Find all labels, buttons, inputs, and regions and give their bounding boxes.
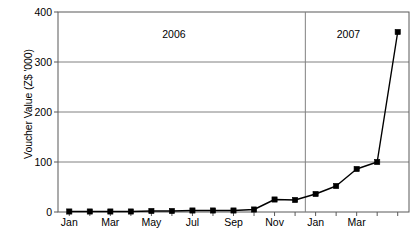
data-point-marker [251, 207, 256, 212]
x-tick-label: Mar [337, 216, 377, 228]
year-annotation-2007: 2007 [318, 28, 378, 40]
data-point-marker [128, 209, 133, 214]
y-tick-label: 100 [6, 157, 52, 167]
data-point-marker [375, 159, 380, 164]
data-point-marker [231, 208, 236, 213]
data-point-marker [210, 208, 215, 213]
data-point-marker [108, 209, 113, 214]
data-point-marker [87, 209, 92, 214]
data-point-marker [272, 197, 277, 202]
data-point-marker [313, 191, 318, 196]
y-tick-label: 200 [6, 107, 52, 117]
data-point-marker [354, 166, 359, 171]
y-axis-tick-labels: 0100200300400 [0, 0, 52, 249]
x-tick-label: Sep [214, 216, 254, 228]
data-point-marker [292, 197, 297, 202]
year-annotation-2006: 2006 [144, 28, 204, 40]
data-point-marker [149, 208, 154, 213]
x-tick-label: Nov [255, 216, 295, 228]
x-tick-label: Jan [49, 216, 89, 228]
data-point-marker [190, 208, 195, 213]
x-tick-label: Jan [296, 216, 336, 228]
data-point-marker [67, 209, 72, 214]
data-point-marker [169, 208, 174, 213]
x-tick-label: Mar [90, 216, 130, 228]
x-axis-tick-labels: JanMarMayJulSepNovJanMar [0, 216, 418, 236]
x-tick-label: May [131, 216, 171, 228]
data-point-marker [334, 183, 339, 188]
y-tick-label: 300 [6, 57, 52, 67]
y-tick-label: 400 [6, 7, 52, 17]
data-point-marker [395, 29, 400, 34]
data-line-voucher-value [69, 32, 397, 212]
voucher-value-line-chart: Voucher Value (Z$ '000) 0100200300400 Ja… [0, 0, 418, 249]
x-tick-label: Jul [172, 216, 212, 228]
